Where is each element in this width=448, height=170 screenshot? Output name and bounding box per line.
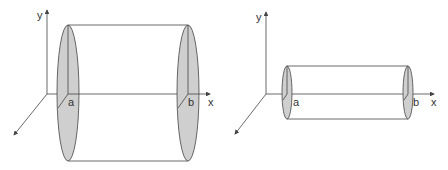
x-axis-label: x [208, 96, 214, 108]
y-axis-label: y [37, 9, 43, 21]
endpoint-label-a: a [293, 96, 300, 108]
endpoint-label-b: b [188, 96, 194, 108]
right-diagram: y x a b [235, 11, 437, 134]
z-axis [235, 94, 266, 134]
diagram-canvas: y x a b y x a b [0, 0, 448, 170]
y-axis-label: y [256, 11, 262, 23]
x-axis-label: x [431, 96, 437, 108]
endpoint-label-b: b [413, 96, 419, 108]
left-diagram: y x a b [14, 9, 214, 161]
endpoint-label-a: a [68, 96, 75, 108]
z-axis [14, 94, 47, 135]
